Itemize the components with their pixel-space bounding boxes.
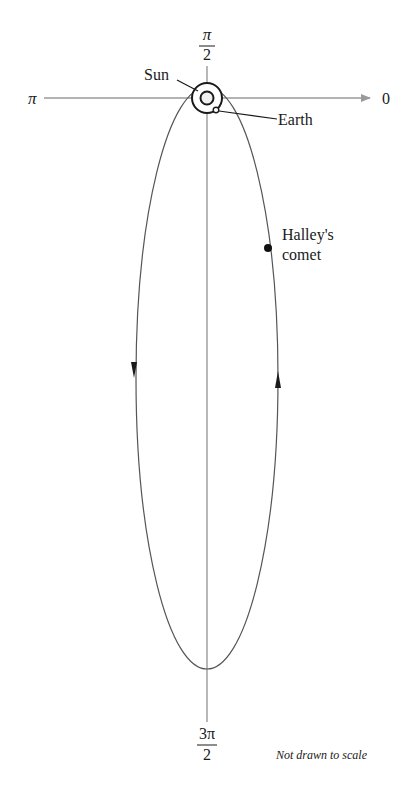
label-pi: π [28, 89, 37, 108]
label-zero: 0 [382, 90, 390, 107]
sun-icon [201, 92, 214, 105]
earth-icon [213, 107, 219, 113]
label-sun: Sun [144, 66, 169, 83]
orbit-direction-arrow-up-icon [275, 371, 281, 388]
label-comet: comet [282, 246, 322, 263]
sun-leader-line [177, 80, 198, 91]
label-pi-over-2-denominator: 2 [203, 46, 211, 63]
label-pi-over-2-numerator: π [203, 25, 212, 44]
not-to-scale-note: Not drawn to scale [275, 748, 368, 762]
halley-orbit-diagram: π 2 π 0 Sun Earth Halley's comet 3π 2 No… [0, 0, 413, 786]
earth-leader-line [219, 111, 277, 119]
halleys-comet-icon [264, 244, 272, 252]
label-3pi-over-2-numerator: 3π [199, 725, 215, 742]
label-halleys: Halley's [282, 226, 334, 244]
label-earth: Earth [278, 111, 313, 128]
label-3pi-over-2-denominator: 2 [203, 746, 211, 763]
